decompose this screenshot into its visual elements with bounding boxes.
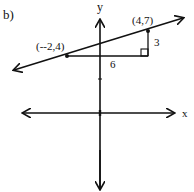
slope-diagram: b) y x (--2,4) (4,7) 6 3: [0, 0, 194, 192]
point-a-label: (--2,4): [36, 40, 65, 53]
point-a: [65, 54, 69, 58]
x-axis-label: x: [182, 107, 188, 119]
right-angle-mark: [141, 49, 148, 56]
y-axis-label: y: [97, 0, 103, 14]
run-label: 6: [110, 58, 116, 70]
point-b: [146, 29, 150, 33]
rise-label: 3: [154, 36, 160, 48]
point-b-label: (4,7): [132, 14, 153, 27]
problem-label: b): [3, 7, 14, 22]
